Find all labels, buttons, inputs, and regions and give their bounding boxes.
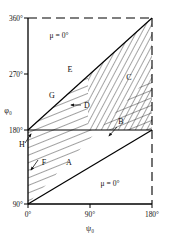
region-label-b: B	[118, 117, 123, 126]
y-tick-label-270: 270°	[9, 70, 23, 79]
x-tick-label-90: 90°	[85, 210, 95, 219]
figure-container: 360° 270° 180° 90° 0° 90° 180° φ₀ ψ₀ μ =…	[0, 0, 176, 236]
mu-zero-upper-label: μ = 0°	[50, 31, 69, 40]
y-tick-label-360: 360°	[9, 14, 23, 23]
x-tick-label-0: 0°	[25, 210, 32, 219]
x-tick-label-180: 180°	[145, 210, 159, 219]
region-label-h: H	[19, 140, 25, 149]
y-axis-title: φ₀	[4, 106, 12, 115]
mu-zero-lower-label: μ = 0°	[101, 179, 120, 188]
y-tick-label-90: 90°	[13, 200, 23, 209]
region-label-f: F	[42, 158, 47, 167]
chart-svg: 360° 270° 180° 90° 0° 90° 180° φ₀ ψ₀ μ =…	[0, 0, 176, 236]
region-label-g: G	[49, 91, 55, 100]
region-label-c: C	[126, 73, 131, 82]
y-tick-label-180: 180°	[9, 126, 23, 135]
region-label-d: D	[84, 101, 90, 110]
x-axis-title: ψ₀	[86, 224, 94, 233]
region-label-a: A	[66, 158, 72, 167]
region-label-e: E	[68, 65, 73, 74]
